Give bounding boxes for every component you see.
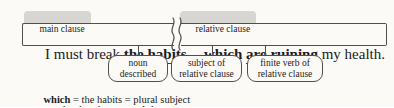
main-clause-box: I must break the habits [22, 23, 174, 46]
bubble-subject-line1: subject of [188, 58, 225, 69]
bubble-noun-line1: noun [129, 58, 148, 69]
main-clause-tab: main clause [24, 11, 91, 23]
clause-break-squiggle-icon [166, 16, 190, 53]
connector-line-subject [212, 46, 213, 55]
grammar-diagram: main clause relative clause I must break… [0, 0, 394, 107]
relative-clause-box: which are ruining my health. [181, 23, 387, 46]
connector-line-verb [265, 46, 266, 55]
relative-clause-tab: relative clause [180, 11, 256, 23]
annotation-bubble-subject: subject of relative clause [171, 55, 242, 82]
bubble-noun-line2: described [120, 69, 156, 80]
bubble-verb-line2: relative clause [258, 69, 313, 80]
annotation-bubble-verb: finite verb of relative clause [247, 55, 323, 82]
note-line-2: plural verb = are ruining [47, 94, 165, 107]
sentence-tail-text: my health. [318, 46, 385, 62]
bubble-verb-line1: finite verb of [260, 58, 310, 69]
note-line-2-bold: are ruining [114, 104, 164, 108]
connector-line-noun [138, 46, 139, 55]
annotation-bubble-noun: noun described [108, 55, 168, 82]
bubble-subject-line2: relative clause [179, 69, 234, 80]
note-line-2-pre: plural verb = [58, 104, 115, 108]
